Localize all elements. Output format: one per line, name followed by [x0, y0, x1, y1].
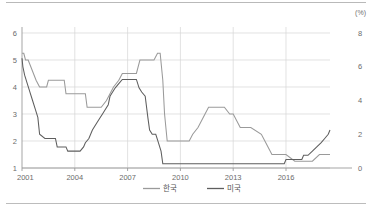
series-group — [22, 53, 330, 164]
x-axis-tick-label: 2004 — [66, 173, 83, 182]
y-axis-right-tick-label: 8 — [358, 29, 362, 38]
y-axis-right-tick-label: 2 — [358, 130, 362, 139]
x-axis-labels: 200120042007201020132016 — [17, 173, 294, 182]
y-axis-right-tick-label: 0 — [358, 164, 362, 173]
x-axis-tick-label: 2016 — [278, 173, 295, 182]
chart-figure: (%) 123456 02468 20012004200720102013201… — [0, 0, 372, 213]
y-axis-right-tick-label: 4 — [358, 96, 362, 105]
chart-legend: 한국미국 — [143, 184, 241, 193]
x-axis-tick-label: 2013 — [225, 173, 242, 182]
y-axis-left-tick-label: 1 — [13, 164, 17, 173]
x-axis-tick-label: 2001 — [17, 173, 34, 182]
y-axis-right-tick-label: 6 — [358, 62, 362, 71]
y-axis-left-tick-label: 5 — [13, 56, 17, 65]
y-axis-left-tick-label: 6 — [13, 29, 17, 38]
axes-group — [22, 27, 352, 171]
y-axis-left-labels: 123456 — [13, 29, 17, 173]
legend-label-2: 미국 — [227, 184, 241, 193]
legend-label-1: 한국 — [163, 184, 177, 193]
y-axis-left-tick-label: 4 — [13, 83, 17, 92]
series-line-2 — [22, 58, 330, 163]
line-chart-plot: 123456 02468 200120042007201020132016 한국… — [0, 0, 372, 213]
series-line-1 — [22, 53, 330, 161]
y-axis-left-tick-label: 2 — [13, 137, 17, 146]
y-axis-left-tick-label: 3 — [13, 110, 17, 119]
x-axis-tick-label: 2007 — [119, 173, 136, 182]
y-axis-right-labels: 02468 — [358, 29, 362, 173]
x-axis-tick-label: 2010 — [172, 173, 189, 182]
gridlines-group — [22, 27, 330, 168]
